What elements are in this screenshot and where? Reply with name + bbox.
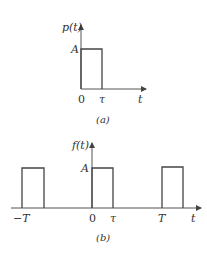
x-axis-label-a: t	[138, 93, 143, 106]
tick-label-a-tau: τ	[99, 93, 106, 106]
caption-b: (b)	[96, 232, 110, 243]
tick-label-b-tau: τ	[110, 212, 117, 225]
tick-label-b-T: T	[158, 212, 167, 225]
figure-a: p(t) A 0 τ t (a)	[62, 21, 146, 125]
tick-label-b-minus-T: −T	[13, 212, 31, 225]
figure-b: f(t) A −T 0 τ T t (b)	[11, 139, 201, 243]
pulse-b-0	[92, 168, 113, 208]
pulse-diagram: p(t) A 0 τ t (a) f(t) A −T 0 τ T t (b)	[0, 0, 207, 256]
pulse-b-T	[162, 167, 183, 208]
amplitude-label-b: A	[80, 162, 89, 175]
pulse-a	[81, 49, 102, 89]
caption-a: (a)	[96, 114, 110, 125]
tick-label-b-0: 0	[89, 212, 96, 225]
y-axis-label-a: p(t)	[62, 21, 82, 34]
x-axis-label-b: t	[191, 212, 196, 225]
y-axis-label-b: f(t)	[71, 139, 89, 152]
tick-label-a-0: 0	[78, 93, 85, 106]
pulse-b-minus-T	[22, 168, 44, 208]
amplitude-label-a: A	[70, 43, 79, 56]
